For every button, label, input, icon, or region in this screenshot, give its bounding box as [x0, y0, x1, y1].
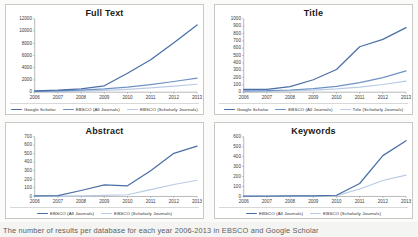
svg-text:2010: 2010 [122, 199, 133, 204]
legend-label: EBSCO (Scholarly Journals) [323, 211, 381, 216]
plot-area-title: 0100200300400500600700800900100020062007… [215, 5, 412, 114]
legend-divider-full-text [10, 103, 199, 104]
chart-panel-full-text: Full Text 020004000600080001000012000200… [0, 0, 209, 118]
svg-text:2012: 2012 [378, 95, 389, 100]
legend-item[interactable]: Google Scholar [224, 107, 269, 112]
svg-text:2010: 2010 [331, 199, 342, 204]
svg-text:400: 400 [233, 60, 241, 65]
legend-swatch-icon [63, 109, 74, 111]
legend-item[interactable]: EBSCO (Scholarly Journals) [101, 211, 172, 216]
svg-text:2008: 2008 [76, 95, 87, 100]
legend-swatch-icon [310, 213, 321, 215]
svg-text:2011: 2011 [146, 199, 156, 204]
svg-text:2000: 2000 [22, 77, 33, 82]
svg-text:2012: 2012 [169, 95, 180, 100]
svg-text:300: 300 [24, 168, 32, 173]
svg-text:2013: 2013 [401, 95, 412, 100]
svg-text:900: 900 [233, 23, 241, 28]
legend-item[interactable]: EBSCO (All Journals) [63, 107, 120, 112]
svg-text:2009: 2009 [99, 95, 110, 100]
svg-text:2012: 2012 [169, 199, 180, 204]
legend-abstract: EBSCO (All Journals)EBSCO (Scholarly Jou… [10, 211, 199, 216]
svg-text:500: 500 [24, 151, 32, 156]
legend-swatch-icon [246, 213, 257, 215]
legend-item[interactable]: EBSCO (Scholarly Journals) [127, 107, 198, 112]
chart-panel-title: Title 0100200300400500600700800900100020… [209, 0, 418, 118]
legend-swatch-icon [11, 109, 22, 111]
chart-title-abstract: Abstract [6, 126, 203, 136]
svg-text:2009: 2009 [308, 95, 319, 100]
svg-text:2007: 2007 [262, 95, 273, 100]
legend-item[interactable]: Title (Scholarly Journals) [340, 107, 404, 112]
legend-label: EBSCO (Scholarly Journals) [140, 107, 198, 112]
svg-text:100: 100 [24, 185, 32, 190]
plot-svg-full-text: 0200040006000800010000120002006200720082… [6, 5, 203, 114]
svg-text:2013: 2013 [192, 199, 203, 204]
svg-text:2009: 2009 [99, 199, 110, 204]
svg-text:2011: 2011 [146, 95, 156, 100]
svg-text:2012: 2012 [378, 199, 389, 204]
svg-text:500: 500 [233, 144, 241, 149]
svg-text:600: 600 [233, 45, 241, 50]
chart-frame-abstract: Abstract 0100200300400500600700200620072… [5, 122, 204, 219]
plot-svg-abstract: 0100200300400500600700200620072008200920… [6, 123, 203, 218]
legend-label: Title (Scholarly Journals) [353, 107, 404, 112]
svg-text:2006: 2006 [239, 95, 250, 100]
svg-text:2007: 2007 [262, 199, 273, 204]
svg-text:100: 100 [233, 82, 241, 87]
svg-text:800: 800 [233, 31, 241, 36]
svg-text:2013: 2013 [401, 199, 412, 204]
svg-text:400: 400 [24, 160, 32, 165]
legend-item[interactable]: Google Scholar [11, 107, 56, 112]
legend-label: EBSCO (All Journals) [259, 211, 303, 216]
figure-page: Full Text 020004000600080001000012000200… [0, 0, 418, 237]
legend-label: EBSCO (All Journals) [288, 107, 332, 112]
legend-label: EBSCO (Scholarly Journals) [114, 211, 172, 216]
legend-divider-abstract [10, 207, 199, 208]
svg-text:2008: 2008 [285, 95, 296, 100]
legend-label: Google Scholar [24, 107, 56, 112]
plot-area-abstract: 0100200300400500600700200620072008200920… [6, 123, 203, 218]
legend-label: EBSCO (All Journals) [50, 211, 94, 216]
plot-svg-title: 0100200300400500600700800900100020062007… [215, 5, 412, 114]
chart-frame-keywords: Keywords 0100200300400500600200620072008… [214, 122, 413, 219]
svg-text:200: 200 [233, 75, 241, 80]
svg-text:2006: 2006 [30, 199, 41, 204]
legend-full-text: Google ScholarEBSCO (All Journals)EBSCO … [10, 107, 199, 112]
legend-swatch-icon [275, 109, 286, 111]
chart-title-full-text: Full Text [6, 8, 203, 18]
legend-item[interactable]: EBSCO (All Journals) [275, 107, 332, 112]
legend-title: Google ScholarEBSCO (All Journals)Title … [219, 107, 408, 112]
chart-frame-full-text: Full Text 020004000600080001000012000200… [5, 4, 204, 115]
svg-text:2011: 2011 [355, 199, 365, 204]
svg-text:2011: 2011 [355, 95, 365, 100]
chart-panel-keywords: Keywords 0100200300400500600200620072008… [209, 118, 418, 222]
legend-item[interactable]: EBSCO (All Journals) [246, 211, 303, 216]
svg-text:600: 600 [24, 142, 32, 147]
legend-divider-keywords [219, 207, 408, 208]
svg-text:2008: 2008 [285, 199, 296, 204]
svg-text:2006: 2006 [239, 199, 250, 204]
legend-label: EBSCO (All Journals) [76, 107, 120, 112]
svg-text:2007: 2007 [53, 95, 64, 100]
svg-text:500: 500 [233, 53, 241, 58]
legend-swatch-icon [101, 213, 112, 215]
legend-swatch-icon [340, 109, 351, 111]
legend-keywords: EBSCO (All Journals)EBSCO (Scholarly Jou… [219, 211, 408, 216]
chart-grid: Full Text 020004000600080001000012000200… [0, 0, 418, 222]
legend-label: Google Scholar [237, 107, 269, 112]
svg-text:2008: 2008 [76, 199, 87, 204]
svg-text:8000: 8000 [22, 41, 33, 46]
legend-swatch-icon [37, 213, 48, 215]
svg-text:10000: 10000 [19, 28, 32, 33]
legend-item[interactable]: EBSCO (Scholarly Journals) [310, 211, 381, 216]
svg-text:2009: 2009 [308, 199, 319, 204]
svg-text:700: 700 [233, 38, 241, 43]
legend-swatch-icon [224, 109, 235, 111]
svg-text:100: 100 [233, 184, 241, 189]
legend-swatch-icon [127, 109, 138, 111]
svg-text:2007: 2007 [53, 199, 64, 204]
svg-text:300: 300 [233, 67, 241, 72]
legend-item[interactable]: EBSCO (All Journals) [37, 211, 94, 216]
svg-text:6000: 6000 [22, 53, 33, 58]
